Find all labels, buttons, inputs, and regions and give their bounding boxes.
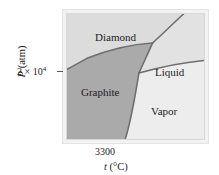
y-tick-mantissa: 2 × 10 [17,66,43,77]
y-axis-tick-label: 2 × 104 [17,66,46,77]
phase-diagram-figure: Diamond Graphite Liquid Vapor P (atm) 2 … [0,0,219,175]
x-axis-units: (°C) [107,161,128,172]
x-axis-tick-label: 3300 [95,146,115,157]
y-axis-label: P (atm) [16,29,27,95]
plot-frame: Diamond Graphite Liquid Vapor [62,9,209,144]
x-axis-label: t (°C) [104,161,128,172]
y-tick-exponent: 4 [43,65,47,73]
y-axis-tick-mark [57,71,63,72]
plot-area: Diamond Graphite Liquid Vapor [66,13,205,140]
phase-regions-svg [67,14,204,139]
